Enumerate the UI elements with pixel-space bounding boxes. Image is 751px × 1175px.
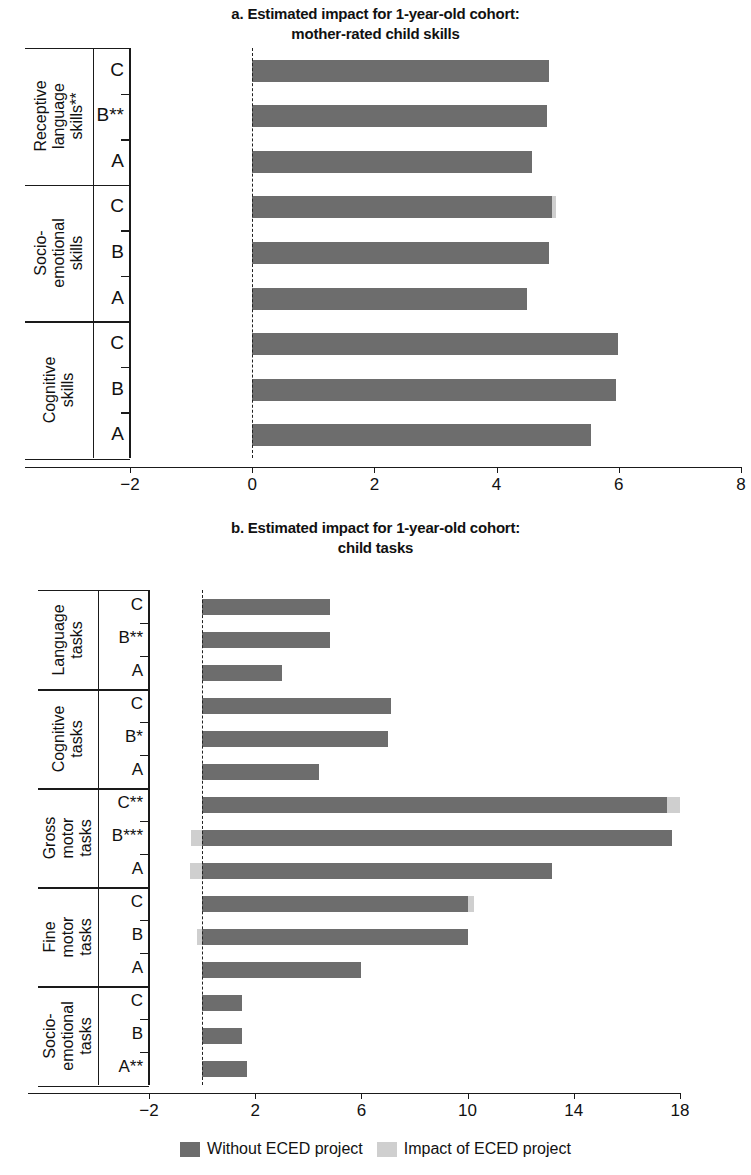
x-axis-tick-label: −2 [129,1101,169,1121]
bar-segment-impact-of-eced [191,830,202,846]
chart-legend: Without ECED projectImpact of ECED proje… [0,1140,751,1158]
category-tick [140,788,149,789]
x-axis-tick-label: 0 [232,475,272,495]
bar-segment-without-eced [202,665,282,681]
bar-segment-impact-of-eced [190,863,202,879]
category-tick [121,276,130,277]
bar [0,424,751,446]
bar-segment-without-eced [202,896,467,912]
x-axis-line [28,1093,680,1094]
bar [0,665,751,681]
x-axis-tick [619,467,620,473]
category-tick [121,94,130,95]
bar [0,105,751,127]
legend-swatch-impact [377,1142,397,1157]
bar [0,731,751,747]
category-tick [140,821,149,822]
x-axis-tick [374,467,375,473]
x-axis-tick [497,467,498,473]
bar-segment-without-eced [202,863,552,879]
category-tick [140,854,149,855]
bar [0,288,751,310]
bar [0,764,751,780]
chart-b-plot-area: Language tasksCognitive tasksGross motor… [0,510,751,1140]
bar-segment-without-eced [252,242,548,264]
category-tick [140,920,149,921]
x-axis-line [25,467,741,468]
category-tick [140,755,149,756]
bar-segment-without-eced [252,424,591,446]
bar-segment-without-eced [202,929,467,945]
category-tick [140,689,149,690]
x-axis-tick-label: 4 [477,475,517,495]
category-tick [140,1052,149,1053]
category-tick [121,185,130,186]
bar [0,599,751,615]
category-tick [140,656,149,657]
bar-segment-without-eced [202,698,390,714]
x-axis-tick-label: 18 [660,1101,700,1121]
bar-segment-without-eced [202,632,330,648]
x-axis-tick [130,467,131,473]
x-axis-tick [149,1093,150,1099]
x-axis-tick-label: 6 [599,475,639,495]
x-axis-tick-label: 10 [448,1101,488,1121]
legend-label: Without ECED project [207,1140,363,1158]
bar [0,151,751,173]
bar-segment-without-eced [202,764,319,780]
bar [0,929,751,945]
legend-item: Impact of ECED project [377,1140,571,1158]
bar [0,242,751,264]
x-axis-tick [468,1093,469,1099]
category-tick [121,412,130,413]
bar-segment-impact-of-eced [667,797,680,813]
bar-segment-without-eced [252,333,617,355]
bar [0,196,751,218]
bar-segment-without-eced [252,379,616,401]
bar-segment-without-eced [202,599,330,615]
chart-a-plot-area: Receptive language skills**Socio- emotio… [0,0,751,500]
x-axis-tick-label: 2 [235,1101,275,1121]
bar [0,995,751,1011]
bar-segment-without-eced [252,151,532,173]
zero-reference-line [252,48,253,458]
chart-panel-a: a. Estimated impact for 1-year-old cohor… [0,0,751,500]
bar-segment-without-eced [202,995,242,1011]
category-tick [140,1019,149,1020]
x-axis-tick-label: 2 [354,475,394,495]
bar-segment-without-eced [252,105,547,127]
bar-segment-without-eced [252,60,549,82]
x-axis-tick [361,1093,362,1099]
bar [0,830,751,846]
x-axis-tick-label: −2 [110,475,150,495]
legend-swatch-without [180,1142,200,1157]
bar-segment-without-eced [202,962,361,978]
category-tick [140,722,149,723]
bar [0,379,751,401]
zero-reference-line [202,590,203,1085]
bar [0,797,751,813]
bar-segment-without-eced [252,196,551,218]
category-tick [121,139,130,140]
bar [0,333,751,355]
bar [0,698,751,714]
bar [0,632,751,648]
x-axis-tick [252,467,253,473]
category-tick [140,953,149,954]
bar [0,60,751,82]
x-axis-tick [741,467,742,473]
bar-segment-without-eced [202,1061,247,1077]
category-tick [121,230,130,231]
legend-label: Impact of ECED project [404,1140,571,1158]
bar [0,962,751,978]
bar [0,1061,751,1077]
category-tick [121,367,130,368]
bar-segment-without-eced [202,830,672,846]
bar-segment-impact-of-eced [468,896,475,912]
category-tick [140,986,149,987]
bar [0,1028,751,1044]
bar-segment-without-eced [202,1028,242,1044]
x-axis-tick-label: 14 [554,1101,594,1121]
bar [0,896,751,912]
chart-panel-b: b. Estimated impact for 1-year-old cohor… [0,510,751,1140]
